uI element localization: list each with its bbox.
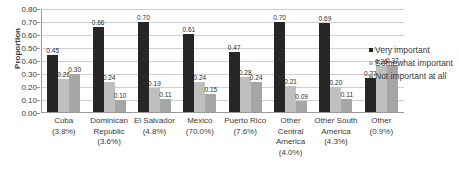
bar[interactable] xyxy=(330,87,341,113)
y-axis-tick-mark xyxy=(37,113,40,114)
bar-value-label: 0.20 xyxy=(330,79,343,86)
y-axis-tick-label: 0.70 xyxy=(21,18,37,27)
category-percent: (3.8%) xyxy=(42,127,85,138)
bar-value-label: 0.10 xyxy=(114,92,127,99)
bar[interactable] xyxy=(205,94,216,114)
bar-wrapper: 0.24 xyxy=(194,9,205,113)
bar[interactable] xyxy=(240,77,251,113)
bar[interactable] xyxy=(69,74,80,113)
y-axis-tick-label: 0.80 xyxy=(21,5,37,14)
bar-value-label: 0.24 xyxy=(250,74,263,81)
legend-item[interactable]: Somewhat important xyxy=(369,57,459,69)
bar-group: 0.690.200.11 xyxy=(313,9,358,113)
bar-chart: Proportion 0.800.700.600.500.400.300.200… xyxy=(0,0,459,172)
bar[interactable] xyxy=(160,99,171,113)
y-axis-tick-mark xyxy=(37,87,40,88)
x-axis-category-label: Cuba(3.8%) xyxy=(41,116,86,172)
bar-value-label: 0.15 xyxy=(204,86,217,93)
bar-value-label: 0.11 xyxy=(159,91,171,98)
bar[interactable] xyxy=(274,22,285,113)
x-axis-category-label: Other South America(4.3%) xyxy=(313,116,358,172)
category-name: El Salvador xyxy=(133,116,176,127)
category-percent: (3.6%) xyxy=(87,137,130,148)
x-axis-category-label: El Salvador(4.8%) xyxy=(132,116,177,172)
bar[interactable] xyxy=(138,22,149,113)
bar-wrapper: 0.61 xyxy=(183,9,194,113)
bar-value-label: 0.11 xyxy=(341,91,353,98)
legend-label: Very important xyxy=(375,45,430,55)
bar-wrapper: 0.30 xyxy=(69,9,80,113)
bar-value-label: 0.61 xyxy=(182,26,195,33)
bar-wrapper: 0.10 xyxy=(115,9,126,113)
category-name: Other South America xyxy=(314,116,357,137)
bar[interactable] xyxy=(365,78,376,113)
y-axis-line xyxy=(41,9,42,113)
bar-groups: 0.450.260.300.660.240.100.700.190.110.61… xyxy=(41,9,404,113)
bar[interactable] xyxy=(47,55,58,114)
bar-value-label: 0.24 xyxy=(103,74,116,81)
category-name: Cuba xyxy=(42,116,85,127)
bar-wrapper: 0.69 xyxy=(319,9,330,113)
bar-value-label: 0.24 xyxy=(193,74,206,81)
y-axis-tick-label: 0.60 xyxy=(21,31,37,40)
bar-group: 0.470.280.24 xyxy=(223,9,268,113)
bar-group: 0.700.190.11 xyxy=(132,9,177,113)
bar[interactable] xyxy=(341,99,352,113)
y-axis-tick-mark xyxy=(37,22,40,23)
bar-wrapper: 0.09 xyxy=(296,9,307,113)
category-name: Other Central America xyxy=(269,116,312,148)
legend-swatch-icon xyxy=(369,48,373,52)
category-name: Mexico xyxy=(178,116,221,127)
category-percent: (4.8%) xyxy=(133,127,176,138)
y-axis-tick-mark xyxy=(37,100,40,101)
bar[interactable] xyxy=(149,88,160,113)
y-axis-tick-mark xyxy=(37,48,40,49)
category-percent: (70.0%) xyxy=(178,127,221,138)
bar-value-label: 0.69 xyxy=(319,15,332,22)
y-axis-tick-label: 0.40 xyxy=(21,57,37,66)
category-percent: (0.9%) xyxy=(360,127,403,138)
bar-wrapper: 0.19 xyxy=(149,9,160,113)
legend-item[interactable]: Not important at all xyxy=(369,70,459,82)
bar-wrapper: 0.26 xyxy=(58,9,69,113)
y-axis-tick-mark xyxy=(37,9,40,10)
y-axis-tick-mark xyxy=(37,35,40,36)
x-axis-category-label: Mexico(70.0%) xyxy=(177,116,222,172)
category-name: Puerto Rico xyxy=(224,116,267,127)
bar[interactable] xyxy=(319,23,330,113)
bar-group: 0.700.210.09 xyxy=(268,9,313,113)
bar-wrapper: 0.11 xyxy=(341,9,352,113)
bar[interactable] xyxy=(93,27,104,113)
bar-wrapper: 0.20 xyxy=(330,9,341,113)
bar-group: 0.610.240.15 xyxy=(177,9,222,113)
legend-label: Somewhat important xyxy=(375,58,453,68)
y-axis-tick-label: 0.30 xyxy=(21,70,37,79)
bar-wrapper: 0.15 xyxy=(205,9,216,113)
bar-value-label: 0.30 xyxy=(68,66,81,73)
x-axis-category-labels: Cuba(3.8%)Dominican Republic(3.6%)El Sal… xyxy=(41,116,404,172)
category-percent: (7.6%) xyxy=(224,127,267,138)
category-name: Dominican Republic xyxy=(87,116,130,137)
x-axis-category-label: Other(0.9%) xyxy=(359,116,404,172)
y-axis-tick-label: 0.00 xyxy=(21,109,37,118)
bar[interactable] xyxy=(229,52,240,113)
bar-wrapper: 0.24 xyxy=(251,9,262,113)
bar[interactable] xyxy=(58,79,69,113)
bar-value-label: 0.19 xyxy=(148,80,161,87)
y-axis-tick-mark xyxy=(37,61,40,62)
y-axis-tick-mark xyxy=(37,74,40,75)
x-axis-category-label: Other Central America(4.0%) xyxy=(268,116,313,172)
bar-group: 0.660.240.10 xyxy=(86,9,131,113)
bar-wrapper: 0.28 xyxy=(240,9,251,113)
legend-item[interactable]: Very important xyxy=(369,44,459,56)
bar-value-label: 0.70 xyxy=(137,14,150,21)
bar-wrapper: 0.70 xyxy=(138,9,149,113)
bar-value-label: 0.09 xyxy=(295,93,308,100)
legend: Very importantSomewhat importantNot impo… xyxy=(369,44,459,83)
bar[interactable] xyxy=(251,82,262,113)
bar-value-label: 0.66 xyxy=(92,19,105,26)
bar-wrapper: 0.66 xyxy=(93,9,104,113)
bar-wrapper: 0.47 xyxy=(229,9,240,113)
bar-value-label: 0.21 xyxy=(284,78,297,85)
y-axis-tick-label: 0.50 xyxy=(21,44,37,53)
